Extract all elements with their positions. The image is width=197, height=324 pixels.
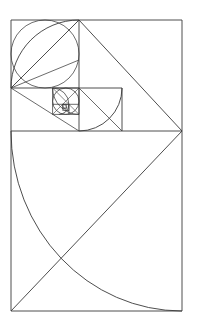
outer-rectangle [11,20,182,311]
diagonal-large-square [11,131,182,311]
diagonal-square-3 [79,88,122,131]
diagonal-fan-upper [11,60,79,88]
figure-canvas [0,0,197,324]
fibonacci-spiral-figure [0,0,197,324]
diagonal-outer-upper [79,20,182,131]
